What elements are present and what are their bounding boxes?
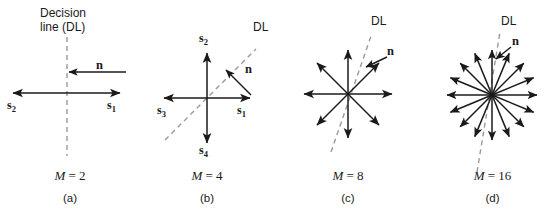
signal-vector-d-3: [492, 63, 524, 95]
panel-a-graphic: [13, 37, 126, 156]
signal-vector-c-6: [317, 94, 348, 125]
signal-label-b-s4: s4: [199, 143, 208, 159]
decision-line-b: [165, 49, 256, 140]
signal-vector-d-15: [492, 95, 524, 127]
noise-label-d: n: [512, 34, 519, 49]
signal-vector-d-7: [460, 63, 492, 95]
signal-vector-c-4: [317, 63, 348, 94]
caption-letter-a: (a): [25, 192, 115, 204]
signal-label-a-s2: s2: [7, 98, 16, 114]
noise-label-b: n: [245, 62, 252, 77]
decision-line-label-b: DL: [253, 20, 268, 34]
panel-c-graphic: [304, 36, 392, 152]
panel-d-graphic: [447, 32, 537, 172]
noise-label-c: n: [387, 44, 394, 59]
panel-b-graphic: [164, 49, 256, 143]
signal-label-b-s3: s3: [157, 103, 166, 119]
decision-line-header-a-line1: Decision: [40, 6, 86, 20]
signal-vector-c-8: [348, 94, 379, 125]
signal-vector-c-2: [348, 63, 379, 94]
caption-m-d: M = 16: [445, 168, 540, 184]
signal-label-a-s1: s1: [107, 98, 116, 114]
caption-m-b: M = 4: [162, 168, 252, 184]
decision-line-header-a-line2: line (DL): [40, 20, 86, 34]
decision-line-label-d: DL: [501, 14, 516, 28]
caption-m-a: M = 2: [25, 168, 115, 184]
noise-label-a: n: [96, 58, 103, 73]
decision-line-header-a: Decision line (DL): [40, 6, 86, 34]
decision-line-label-c: DL: [371, 14, 386, 28]
signal-vector-d-11: [460, 95, 492, 127]
noise-vector-d: [496, 47, 511, 59]
caption-m-c: M = 8: [303, 168, 393, 184]
caption-letter-c: (c): [303, 192, 393, 204]
caption-letter-d: (d): [445, 192, 540, 204]
figure-canvas: Decision line (DL) n s2 s1 M = 2 (a) DL …: [0, 0, 553, 218]
caption-letter-b: (b): [162, 192, 252, 204]
signal-label-b-s1: s1: [237, 103, 246, 119]
signal-label-b-s2: s2: [199, 31, 208, 47]
